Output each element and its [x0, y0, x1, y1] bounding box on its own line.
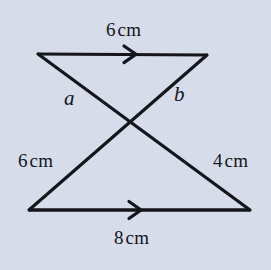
- label-top-value: 6: [106, 19, 116, 40]
- label-top-length: 6cm: [106, 20, 141, 39]
- label-side-b: b: [174, 84, 185, 105]
- label-right-length: 4cm: [213, 151, 248, 170]
- label-right-value: 4: [213, 150, 223, 171]
- label-left-unit: cm: [30, 150, 53, 171]
- segment-right-diagonal: [29, 55, 207, 210]
- label-top-unit: cm: [118, 19, 141, 40]
- label-left-length: 6cm: [18, 151, 53, 170]
- segment-left-diagonal: [38, 54, 250, 210]
- label-side-a: a: [64, 88, 75, 109]
- segment-top-side: [38, 54, 207, 55]
- label-right-unit: cm: [225, 150, 248, 171]
- label-bottom-length: 8cm: [114, 228, 149, 247]
- label-bottom-unit: cm: [126, 227, 149, 248]
- label-bottom-value: 8: [114, 227, 124, 248]
- label-left-value: 6: [18, 150, 28, 171]
- geometry-figure: 6cm 6cm 4cm 8cm a b: [0, 0, 271, 270]
